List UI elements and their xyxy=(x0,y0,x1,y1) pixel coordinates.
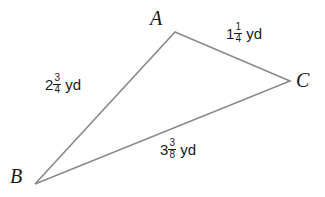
vertex-label-b: B xyxy=(10,166,22,186)
side-length-bc: 3 3 8 yd xyxy=(160,138,196,160)
side-ab-denominator: 4 xyxy=(54,85,62,95)
side-ac-numerator: 1 xyxy=(235,22,243,32)
side-bc-unit: yd xyxy=(180,142,196,157)
side-ab-numerator: 3 xyxy=(54,73,62,83)
side-ac-whole: 1 xyxy=(226,26,234,41)
side-ac-unit: yd xyxy=(246,26,262,41)
triangle-figure: A B C 1 1 4 yd 2 3 4 yd 3 3 8 yd xyxy=(0,0,325,197)
side-bc-numerator: 3 xyxy=(169,138,177,148)
vertex-label-c: C xyxy=(296,70,309,90)
side-bc-fraction: 3 8 xyxy=(168,138,176,160)
side-ab-whole: 2 xyxy=(45,77,53,92)
side-ac-fraction: 1 4 xyxy=(234,22,242,44)
side-bc-whole: 3 xyxy=(160,142,168,157)
side-ac-denominator: 4 xyxy=(235,34,243,44)
side-bc-denominator: 8 xyxy=(169,150,177,160)
triangle-shape xyxy=(35,32,290,184)
triangle-outline xyxy=(0,0,325,197)
side-length-ac: 1 1 4 yd xyxy=(226,22,262,44)
side-length-ab: 2 3 4 yd xyxy=(45,73,81,95)
side-ab-unit: yd xyxy=(65,77,81,92)
side-ab-fraction: 3 4 xyxy=(53,73,61,95)
vertex-label-a: A xyxy=(150,8,162,28)
